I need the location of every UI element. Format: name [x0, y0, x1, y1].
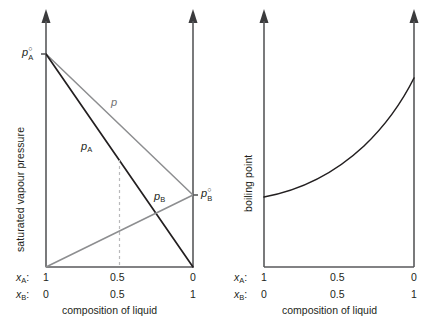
right-xa-tick-2: 0 — [411, 271, 417, 283]
right-x-axis-title: composition of liquid — [282, 304, 377, 316]
right-xb-row-tag: xB: — [234, 288, 247, 300]
left-x-axis-title: composition of liquid — [62, 304, 157, 316]
partial-pressure-b-label: pB — [154, 190, 165, 202]
left-xb-tick-0: 0 — [43, 288, 49, 300]
bp-left-axis-group — [260, 9, 269, 267]
boiling-point-curve — [264, 78, 414, 197]
right-xa-tick-1: 0.5 — [330, 271, 345, 283]
left-xb-tick-2: 1 — [190, 288, 196, 300]
left-xb-row-tag: xB: — [16, 288, 29, 300]
right-xb-tick-1: 0.5 — [330, 288, 345, 300]
right-xb-tick-2: 1 — [411, 288, 417, 300]
bp-left-axis-arrow-icon — [260, 9, 269, 23]
right-axis-group — [189, 9, 198, 267]
total-pressure-label: p — [111, 96, 117, 108]
right-xb-tick-0: 0 — [261, 288, 267, 300]
left-xa-tick-0: 1 — [43, 271, 49, 283]
right-axis-arrow-icon — [189, 9, 198, 23]
vapour-pressure-panel: saturated vapour pressure p pA pB p○A p○… — [0, 0, 224, 319]
pa-standard-label: p○A — [22, 46, 28, 58]
partial-pressure-a-label: pA — [81, 140, 92, 152]
right-y-axis-label: boiling point — [242, 155, 254, 212]
left-y-axis-label: saturated vapour pressure — [14, 127, 26, 252]
bp-right-axis-arrow-icon — [410, 9, 419, 23]
left-xa-tick-1: 0.5 — [110, 271, 125, 283]
pb-standard-label: p○B — [201, 187, 207, 199]
left-axis-group — [42, 9, 51, 267]
right-xa-tick-0: 1 — [261, 271, 267, 283]
left-xa-row-tag: xA: — [16, 271, 29, 283]
figure-container: saturated vapour pressure p pA pB p○A p○… — [0, 0, 448, 319]
left-xb-tick-1: 0.5 — [110, 288, 125, 300]
left-axis-arrow-icon — [42, 9, 51, 23]
bp-right-axis-group — [410, 9, 419, 267]
right-xa-row-tag: xA: — [234, 271, 247, 283]
left-xa-tick-2: 0 — [190, 271, 196, 283]
boiling-point-panel: boiling point xA: 1 0.5 0 xB: 0 0.5 1 co… — [224, 0, 448, 319]
